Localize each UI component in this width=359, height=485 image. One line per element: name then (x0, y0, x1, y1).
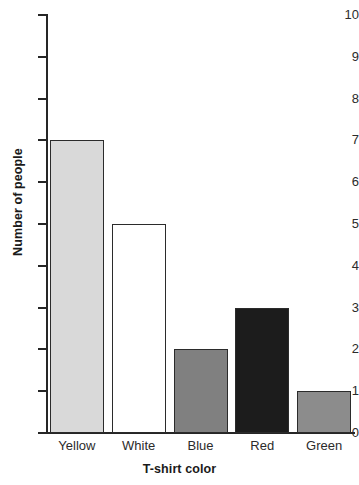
y-axis-tick (38, 98, 46, 100)
y-axis-tick (38, 265, 46, 267)
bar-chart: Number of people 012345678910 YellowWhit… (0, 0, 359, 485)
y-axis-tick (38, 223, 46, 225)
x-axis-tick-label-white: White (108, 438, 170, 453)
bar-white (112, 224, 166, 433)
x-axis-tick-label-yellow: Yellow (46, 438, 108, 453)
bar-green (297, 391, 351, 433)
y-axis-tick (38, 56, 46, 58)
bar-blue (174, 349, 228, 433)
x-axis-title: T-shirt color (0, 462, 359, 476)
y-axis-tick (38, 348, 46, 350)
y-axis-tick (38, 14, 46, 16)
x-axis-tick-label-blue: Blue (170, 438, 232, 453)
x-axis-tick-label-green: Green (293, 438, 355, 453)
bar-yellow (50, 140, 104, 433)
plot-area (46, 15, 355, 433)
y-axis-tick (38, 181, 46, 183)
y-axis-tick (38, 432, 46, 434)
bar-red (235, 308, 289, 433)
y-axis-tick (38, 390, 46, 392)
y-axis-tick (38, 139, 46, 141)
y-axis-tick (38, 307, 46, 309)
x-axis-tick-label-red: Red (231, 438, 293, 453)
y-axis-title: Number of people (11, 132, 25, 272)
